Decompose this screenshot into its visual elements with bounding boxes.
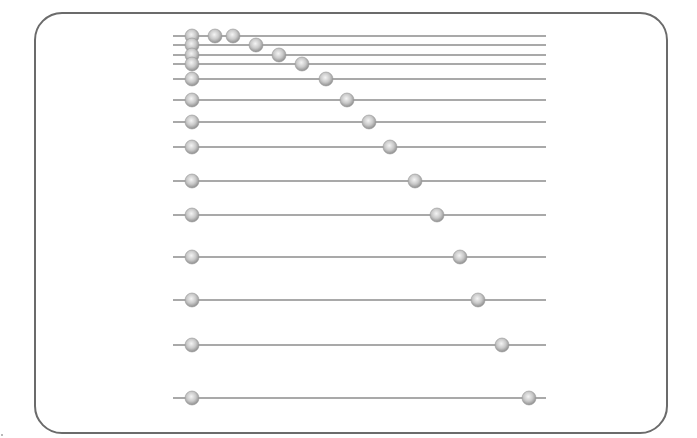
bead: [185, 391, 199, 405]
bead-rails-diagram: [0, 0, 697, 438]
bead: [208, 29, 222, 43]
bead: [185, 115, 199, 129]
rails-group: [173, 29, 546, 405]
bead: [185, 140, 199, 154]
bead: [408, 174, 422, 188]
bead: [185, 208, 199, 222]
bead: [319, 72, 333, 86]
bead: [185, 174, 199, 188]
bead: [522, 391, 536, 405]
bead: [471, 293, 485, 307]
bead: [340, 93, 354, 107]
bead: [185, 57, 199, 71]
bead: [185, 293, 199, 307]
diagram-canvas: [0, 0, 697, 438]
bead: [185, 250, 199, 264]
bead: [430, 208, 444, 222]
bead: [495, 338, 509, 352]
bead: [453, 250, 467, 264]
bead: [295, 57, 309, 71]
bead: [383, 140, 397, 154]
bead: [185, 338, 199, 352]
bead: [249, 38, 263, 52]
bead: [362, 115, 376, 129]
bead: [272, 48, 286, 62]
bead: [226, 29, 240, 43]
stray-mark: [1, 434, 3, 436]
bead: [185, 72, 199, 86]
bead: [185, 93, 199, 107]
